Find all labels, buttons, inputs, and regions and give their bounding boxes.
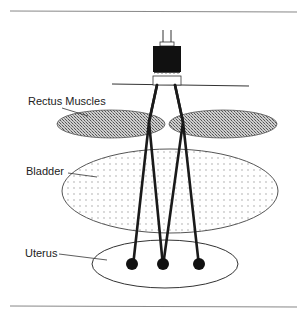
label-rectus-muscles: Rectus Muscles [28,95,106,107]
diagram-canvas: Rectus Muscles Bladder Uterus [0,0,308,310]
label-uterus: Uterus [25,247,58,259]
electrode-2 [157,258,169,270]
electrode-1 [126,258,138,270]
bottom-rule [10,306,297,307]
device [153,30,181,85]
electrode-3 [193,258,205,270]
top-rule [10,11,297,12]
label-bladder: Bladder [26,165,64,177]
